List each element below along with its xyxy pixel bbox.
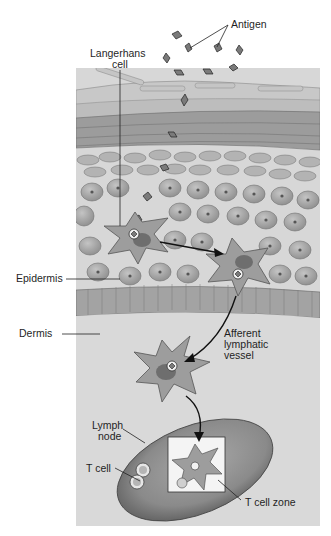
stratum-granulosum bbox=[76, 111, 320, 150]
label-antigen: Antigen bbox=[231, 19, 267, 30]
langerhans-cell-1 bbox=[104, 212, 168, 264]
label-epidermis: Epidermis bbox=[16, 273, 63, 284]
skin-layers-illustration bbox=[76, 68, 320, 526]
label-lymph-node-line2: node bbox=[98, 431, 121, 442]
label-t-cell-zone: T cell zone bbox=[245, 497, 296, 508]
label-langerhans-cell-line2: cell bbox=[112, 59, 128, 70]
diagram-panel bbox=[76, 68, 320, 526]
label-t-cell: T cell bbox=[86, 463, 111, 474]
label-afferent-line3: vessel bbox=[224, 350, 254, 361]
stratum-spinosum bbox=[77, 150, 320, 181]
label-dermis: Dermis bbox=[19, 328, 52, 339]
